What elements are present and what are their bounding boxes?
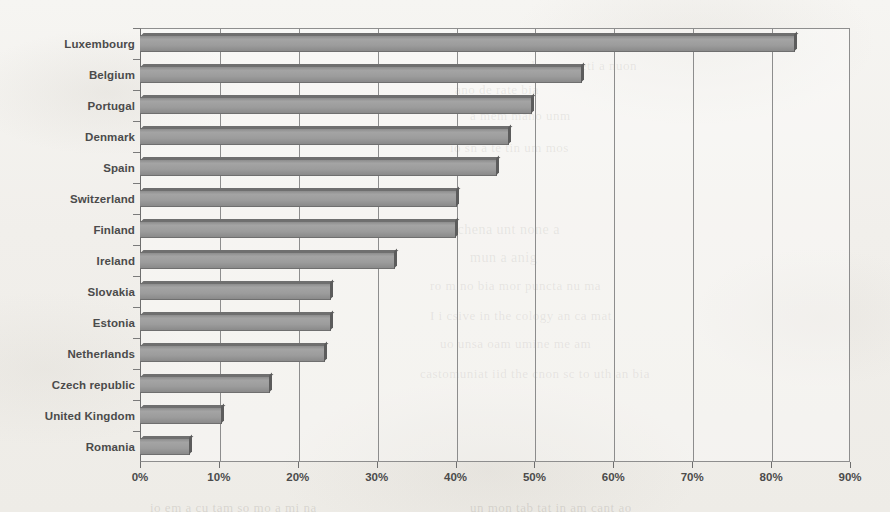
x-axis-tick-label: 0% (132, 471, 149, 483)
category-label: Slovakia (88, 286, 135, 298)
chart-row: Portugal (0, 90, 890, 121)
category-label: Portugal (88, 100, 135, 112)
bar[interactable] (140, 221, 456, 238)
y-axis-tick (133, 307, 140, 308)
y-axis-tick (133, 400, 140, 401)
y-axis-tick (133, 369, 140, 370)
bar[interactable] (140, 252, 395, 269)
x-axis-tick-label: 30% (365, 471, 388, 483)
chart-row: United Kingdom (0, 400, 890, 431)
chart-row: Denmark (0, 121, 890, 152)
bar[interactable] (140, 97, 532, 114)
y-axis-tick (133, 431, 140, 432)
x-axis-tick (456, 462, 457, 468)
y-axis-tick (133, 90, 140, 91)
chart-row: Luxembourg (0, 28, 890, 59)
x-axis-tick-label: 10% (207, 471, 230, 483)
category-label: Finland (93, 224, 135, 236)
x-axis-tick (140, 462, 141, 468)
x-axis-tick-label: 70% (681, 471, 704, 483)
category-label: Estonia (93, 317, 135, 329)
chart-row: Estonia (0, 307, 890, 338)
x-axis-tick (613, 462, 614, 468)
chart-row: Ireland (0, 245, 890, 276)
bar[interactable] (140, 66, 582, 83)
chart-row: Belgium (0, 59, 890, 90)
x-axis-tick-label: 80% (760, 471, 783, 483)
x-axis-tick (850, 462, 851, 468)
x-axis: 0%10%20%30%40%50%60%70%80%90% (140, 462, 850, 496)
x-axis-tick-label: 50% (523, 471, 546, 483)
chart-row: Slovakia (0, 276, 890, 307)
category-label: Switzerland (70, 193, 135, 205)
bar[interactable] (140, 314, 331, 331)
category-label: Denmark (85, 131, 135, 143)
x-axis-tick (771, 462, 772, 468)
bar[interactable] (140, 128, 509, 145)
category-label: Belgium (89, 69, 135, 81)
bar-chart: LuxembourgBelgiumPortugalDenmarkSpainSwi… (0, 0, 890, 512)
bar[interactable] (140, 159, 497, 176)
y-axis-tick (133, 59, 140, 60)
chart-row: Romania (0, 431, 890, 462)
category-label: United Kingdom (45, 410, 135, 422)
bar[interactable] (140, 283, 331, 300)
chart-row: Czech republic (0, 369, 890, 400)
category-label: Spain (103, 162, 135, 174)
y-axis-tick (133, 276, 140, 277)
bar[interactable] (140, 190, 457, 207)
y-axis-tick (133, 338, 140, 339)
y-axis-tick (133, 245, 140, 246)
category-label: Romania (86, 441, 135, 453)
bar[interactable] (140, 407, 222, 424)
category-label: Luxembourg (64, 38, 135, 50)
x-axis-tick-label: 60% (602, 471, 625, 483)
category-label: Netherlands (67, 348, 135, 360)
x-axis-tick-label: 40% (444, 471, 467, 483)
x-axis-tick (377, 462, 378, 468)
y-axis-tick (133, 183, 140, 184)
x-axis-tick-label: 20% (286, 471, 309, 483)
chart-row: Spain (0, 152, 890, 183)
bar[interactable] (140, 438, 190, 455)
x-axis-tick (298, 462, 299, 468)
category-label: Ireland (97, 255, 135, 267)
bar[interactable] (140, 345, 325, 362)
bar[interactable] (140, 35, 795, 52)
y-axis-tick (133, 121, 140, 122)
category-label: Czech republic (52, 379, 135, 391)
y-axis-tick (133, 152, 140, 153)
x-axis-tick-label: 90% (838, 471, 861, 483)
chart-row: Finland (0, 214, 890, 245)
chart-rows: LuxembourgBelgiumPortugalDenmarkSpainSwi… (0, 28, 890, 462)
x-axis-tick (219, 462, 220, 468)
chart-row: Switzerland (0, 183, 890, 214)
y-axis-tick (133, 214, 140, 215)
chart-row: Netherlands (0, 338, 890, 369)
x-axis-tick (692, 462, 693, 468)
y-axis-tick (133, 28, 140, 29)
x-axis-tick (534, 462, 535, 468)
bar[interactable] (140, 376, 270, 393)
